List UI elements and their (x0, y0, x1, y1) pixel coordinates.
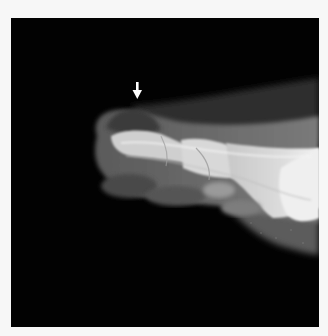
toe-pad-2 (146, 186, 206, 206)
foot-radiograph (11, 18, 319, 327)
xray-image (11, 18, 319, 327)
arrow-down-icon (133, 82, 143, 99)
